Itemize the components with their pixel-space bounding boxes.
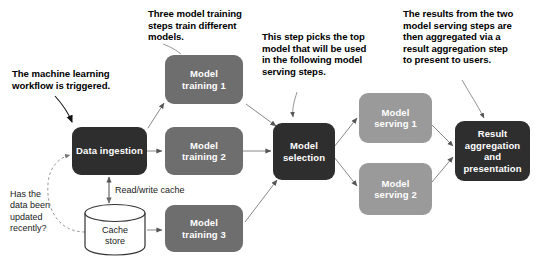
node-model-training-2-line1: Model xyxy=(182,140,226,152)
node-model-training-3-line1: Model xyxy=(182,217,226,229)
annotation-top-model-line4: serving steps. xyxy=(262,66,392,78)
node-result-aggregation-line1: Result xyxy=(463,128,521,140)
node-result-aggregation-line4: presentation xyxy=(463,163,521,175)
annotation-results-line3: then aggregated via a xyxy=(403,31,538,43)
annotation-results-line1: The results from the two xyxy=(403,8,538,20)
edge-label-has-data-updated-line3: updated xyxy=(10,212,70,223)
edge-serving1-to-result xyxy=(432,125,453,146)
edge-ingestion-to-training1 xyxy=(148,103,164,128)
node-data-ingestion-label: Data ingestion xyxy=(76,145,143,157)
edge-training3-to-selection xyxy=(245,180,277,222)
node-result-aggregation-line3: and xyxy=(463,151,521,163)
node-model-serving-2[interactable]: Model serving 2 xyxy=(359,163,432,215)
node-model-training-3[interactable]: Model training 3 xyxy=(165,205,243,252)
edge-label-has-data-updated-line4: recently? xyxy=(10,223,70,234)
node-result-aggregation[interactable]: Result aggregation and presentation xyxy=(455,121,530,181)
node-model-training-1-line2: training 1 xyxy=(182,80,226,92)
node-model-serving-1-line1: Model xyxy=(374,107,417,119)
annotation-three-training-line2: steps train different xyxy=(148,20,273,32)
pointer-three-training xyxy=(163,44,181,54)
annotation-results: The results from the two model serving s… xyxy=(403,8,538,66)
node-model-training-2[interactable]: Model training 2 xyxy=(165,127,243,175)
node-model-serving-1-line2: serving 1 xyxy=(374,118,417,130)
node-model-training-3-line2: training 3 xyxy=(182,229,226,241)
edge-serving2-to-result xyxy=(432,157,453,182)
edge-label-has-data-updated-line2: data been xyxy=(10,200,70,211)
annotation-results-line2: model serving steps are xyxy=(403,20,538,32)
pointer-workflow-trigger xyxy=(55,96,72,122)
annotation-workflow-trigger: The machine learning workflow is trigger… xyxy=(12,68,162,91)
node-model-serving-2-line2: serving 2 xyxy=(374,189,417,201)
edge-label-has-data-updated: Has the data been updated recently? xyxy=(10,189,70,235)
node-model-serving-2-line1: Model xyxy=(374,178,417,190)
node-cache-store-line2: store xyxy=(84,236,146,247)
edge-selection-to-serving1 xyxy=(334,118,357,147)
node-model-selection[interactable]: Model selection xyxy=(273,123,335,180)
diagram-canvas: The machine learning workflow is trigger… xyxy=(0,0,538,268)
annotation-three-training: Three model training steps train differe… xyxy=(148,8,273,43)
node-model-training-2-line2: training 2 xyxy=(182,151,226,163)
node-model-training-1[interactable]: Model training 1 xyxy=(165,55,243,104)
annotation-top-model-line3: in the following model xyxy=(262,54,392,66)
pointer-results xyxy=(462,80,484,118)
node-model-selection-line2: selection xyxy=(283,152,325,164)
pointer-top-model xyxy=(293,92,297,117)
node-model-selection-line1: Model xyxy=(283,140,325,152)
annotation-three-training-line1: Three model training xyxy=(148,8,273,20)
node-cache-store-line1: Cache xyxy=(84,225,146,236)
node-result-aggregation-line2: aggregation xyxy=(463,140,521,152)
node-cache-store[interactable]: Cache store xyxy=(84,203,146,256)
annotation-results-line5: to present to users. xyxy=(403,54,538,66)
node-model-serving-1[interactable]: Model serving 1 xyxy=(359,93,432,143)
annotation-results-line4: result aggregation step xyxy=(403,43,538,55)
node-model-training-1-line1: Model xyxy=(182,68,226,80)
annotation-three-training-line3: models. xyxy=(148,31,273,43)
annotation-top-model-line2: model that will be used xyxy=(262,43,392,55)
annotation-top-model-line1: This step picks the top xyxy=(262,31,392,43)
edge-label-read-write-cache: Read/write cache xyxy=(115,185,215,196)
annotation-workflow-trigger-line2: workflow is triggered. xyxy=(12,80,162,92)
edge-selection-to-serving2 xyxy=(334,157,357,186)
node-data-ingestion[interactable]: Data ingestion xyxy=(72,127,147,175)
annotation-workflow-trigger-line1: The machine learning xyxy=(12,68,162,80)
edge-training1-to-selection xyxy=(246,104,276,126)
annotation-top-model: This step picks the top model that will … xyxy=(262,31,392,77)
edge-label-has-data-updated-line1: Has the xyxy=(10,189,70,200)
